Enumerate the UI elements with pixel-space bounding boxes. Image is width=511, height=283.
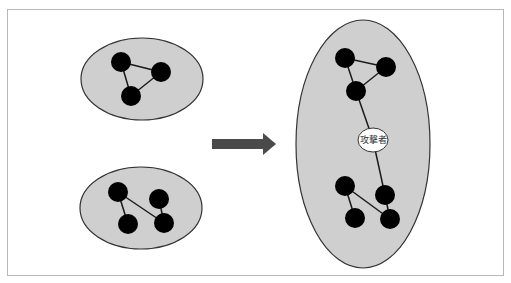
node	[380, 209, 400, 229]
node	[111, 52, 131, 72]
node	[118, 214, 138, 234]
node	[376, 57, 396, 77]
node	[108, 182, 128, 202]
attacker-node: 攻撃者	[358, 128, 388, 152]
node	[335, 48, 355, 68]
attacker-label: 攻撃者	[360, 134, 387, 145]
node	[149, 189, 169, 209]
node	[375, 185, 395, 205]
node	[154, 213, 174, 233]
cluster-merged: 攻撃者	[296, 20, 430, 268]
node	[345, 208, 365, 228]
network-diagram: 攻撃者	[0, 0, 511, 283]
node	[121, 86, 141, 106]
node	[151, 62, 171, 82]
arrow-right-icon	[212, 133, 276, 155]
node	[346, 81, 366, 101]
cluster-bottom-left	[80, 167, 202, 249]
cluster-top-left	[81, 38, 203, 120]
node	[335, 176, 355, 196]
